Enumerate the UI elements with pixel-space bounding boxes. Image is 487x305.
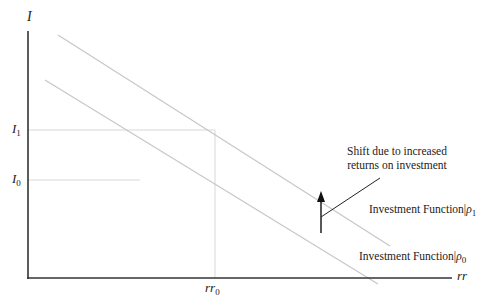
tick-i0: I0: [12, 171, 21, 188]
label-rho1-sub: 1: [472, 208, 477, 218]
investment-function-rho0: [45, 80, 378, 284]
label-rho0-name: Investment Function|: [359, 250, 456, 262]
tick-rr0-sub: 0: [215, 287, 220, 297]
label-investment-function-rho1: Investment Function|ρ1: [369, 203, 476, 218]
label-investment-function-rho0: Investment Function|ρ0: [359, 250, 466, 265]
tick-i0-sub: 0: [16, 178, 21, 188]
tick-i1-sub: 1: [16, 128, 21, 138]
tick-rr0: rr0: [205, 280, 220, 297]
label-rho0-sub: 0: [462, 255, 467, 265]
x-axis-label: rr: [457, 268, 467, 284]
shift-annotation: Shift due to increased returns on invest…: [347, 144, 447, 172]
tick-i1: I1: [12, 121, 21, 138]
tick-rr0-base: rr: [205, 280, 215, 295]
shift-arrow-head: [317, 191, 325, 202]
investment-function-rho1: [58, 35, 390, 246]
shift-annotation-line1: Shift due to increased: [347, 144, 447, 158]
y-axis-label: I: [27, 9, 32, 25]
label-rho1-name: Investment Function|: [369, 203, 466, 215]
shift-annotation-line2: returns on investment: [347, 158, 447, 172]
